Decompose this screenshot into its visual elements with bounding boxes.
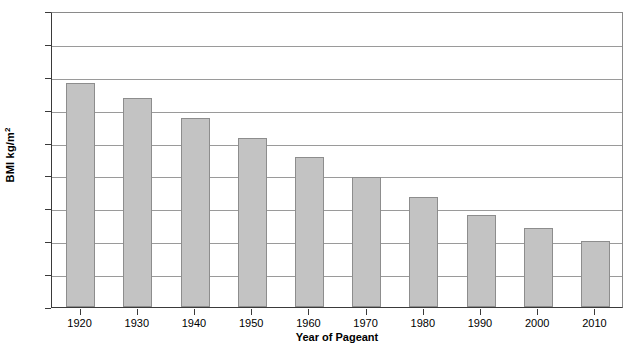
y-axis-unit-superscript: 2 — [3, 127, 12, 132]
bar[interactable] — [524, 228, 553, 307]
bar[interactable] — [352, 177, 381, 307]
x-axis-tick-mark — [251, 309, 252, 315]
gridline — [52, 46, 622, 47]
x-axis-tick-mark — [480, 309, 481, 315]
y-axis-title-text: BMI kg/m2 — [3, 127, 17, 182]
x-axis-tick-label: 1980 — [393, 317, 453, 330]
bar[interactable] — [467, 215, 496, 307]
bar[interactable] — [66, 83, 95, 307]
bar[interactable] — [295, 157, 324, 307]
bar[interactable] — [181, 118, 210, 307]
x-axis-tick-mark — [137, 309, 138, 315]
x-axis-tick-label: 1940 — [164, 317, 224, 330]
x-axis-tick-label: 1920 — [50, 317, 110, 330]
y-axis-tick-mark — [45, 308, 51, 309]
x-axis-tick-label: 1930 — [107, 317, 167, 330]
x-axis-tick-mark — [194, 309, 195, 315]
y-axis-title: BMI kg/m2 — [0, 0, 20, 310]
x-axis-tick-label: 1960 — [278, 317, 338, 330]
x-axis-tick-mark — [308, 309, 309, 315]
x-axis-title: Year of Pageant — [51, 331, 623, 343]
bar[interactable] — [581, 241, 610, 307]
x-axis-tick-label: 1970 — [336, 317, 396, 330]
x-axis-tick-label: 1950 — [221, 317, 281, 330]
x-axis-tick-label: 1990 — [450, 317, 510, 330]
plot-area — [51, 12, 623, 308]
bar[interactable] — [409, 197, 438, 307]
x-axis-tick-mark — [80, 309, 81, 315]
x-axis-tick-label: 2010 — [564, 317, 624, 330]
gridline — [52, 79, 622, 80]
x-axis-tick-mark — [594, 309, 595, 315]
bmi-bar-chart: BMI kg/m2 15161718192021222324 192019301… — [0, 0, 630, 349]
x-axis-tick-mark — [537, 309, 538, 315]
x-axis-tick-mark — [366, 309, 367, 315]
bar[interactable] — [238, 138, 267, 307]
x-axis-tick-label: 2000 — [507, 317, 567, 330]
bar[interactable] — [123, 98, 152, 307]
x-axis-tick-mark — [423, 309, 424, 315]
